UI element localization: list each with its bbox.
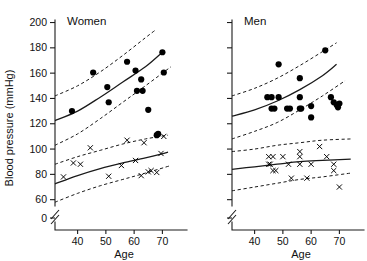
data-point-circle [297,75,303,81]
data-point-circle [161,69,167,75]
panel-title-men: Men [244,15,266,27]
data-point-circle [268,94,274,100]
x-axis-tick-label: 40 [72,235,84,247]
figure-container: Blood pressure (mmHg) 060801001201401601… [0,0,367,261]
data-point-circle [124,59,130,65]
y-axis-tick-label: 60 [35,193,47,205]
x-axis-tick-label: 50 [277,235,289,247]
blood-pressure-scatter-chart: Blood pressure (mmHg) 060801001201401601… [0,0,367,261]
data-point-circle [298,105,304,111]
y-axis-tick-label: 0 [41,212,47,224]
y-axis-tick-label: 100 [29,143,47,155]
data-point-circle [106,99,112,105]
data-point-circle [287,105,293,111]
x-axis-tick-label: 40 [249,235,261,247]
data-point-circle [145,107,151,113]
y-axis-tick-label: 180 [29,41,47,53]
data-point-circle [90,69,96,75]
x-axis-tick-label: 60 [128,235,140,247]
x-axis-title: Age [291,248,311,260]
data-point-circle [69,108,75,114]
data-point-circle [138,76,144,82]
y-axis-tick-label: 80 [35,168,47,180]
panel-title-women: Women [67,15,106,27]
data-point-circle [297,94,303,100]
data-point-circle [336,100,342,106]
data-point-circle [140,88,146,94]
data-point-circle [132,68,138,74]
data-point-circle [322,47,328,53]
x-axis-tick-label: 70 [334,235,346,247]
y-axis-tick-label: 200 [29,16,47,28]
y-axis-tick-label: 140 [29,92,47,104]
data-point-circle [308,114,314,120]
data-point-circle [276,94,282,100]
x-axis-tick-label: 70 [157,235,169,247]
x-axis-title: Age [114,248,134,260]
data-point-circle [276,61,282,67]
y-axis-tick-label: 160 [29,67,47,79]
data-point-circle [308,103,314,109]
data-point-circle [134,88,140,94]
data-point-circle [271,105,277,111]
y-axis-title: Blood pressure (mmHg) [3,70,15,187]
data-point-circle [155,131,161,137]
x-axis-tick-label: 60 [305,235,317,247]
y-axis-tick-label: 120 [29,117,47,129]
data-point-circle [159,49,165,55]
data-point-circle [104,84,110,90]
x-axis-tick-label: 50 [100,235,112,247]
